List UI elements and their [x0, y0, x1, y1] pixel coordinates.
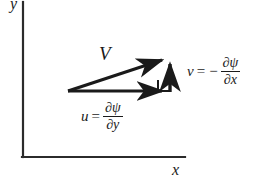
- figure-canvas: y x V v = − ∂ψ ∂x u = ∂ψ ∂y: [0, 0, 263, 191]
- velocity-vector-V: [68, 60, 162, 91]
- u-equation-numerator: ∂ψ: [103, 100, 123, 116]
- velocity-vector-label: V: [99, 44, 111, 63]
- v-equation-denominator: ∂x: [222, 72, 239, 88]
- u-equation-lhs: u: [80, 109, 90, 124]
- x-axis-label: x: [172, 162, 179, 178]
- v-component-equation: v = − ∂ψ ∂x: [186, 55, 241, 87]
- u-equation-fraction: ∂ψ ∂y: [103, 100, 123, 132]
- u-equation-denominator: ∂y: [104, 117, 121, 133]
- u-equation-operator: =: [90, 109, 102, 124]
- diagram-vector-graphics: [0, 0, 263, 191]
- v-equation-fraction: ∂ψ ∂x: [221, 55, 241, 87]
- v-equation-sign: −: [207, 64, 219, 79]
- right-angle-marker: [158, 80, 169, 91]
- v-equation-lhs: v: [186, 64, 195, 79]
- v-equation-numerator: ∂ψ: [221, 55, 241, 71]
- u-component-equation: u = ∂ψ ∂y: [80, 100, 124, 132]
- y-axis-label: y: [10, 0, 17, 12]
- v-equation-operator: =: [195, 64, 207, 79]
